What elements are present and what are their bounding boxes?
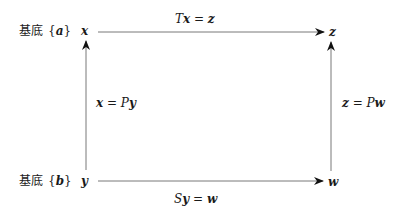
edge-label-left: x = Py [96, 97, 136, 109]
basis-var-b: b [56, 174, 64, 188]
basis-prefix: 基底 [19, 24, 43, 38]
edge-label-bottom: Sy = w [174, 193, 217, 205]
basis-a-label: 基底 {a} [19, 25, 71, 37]
edge-label-top: Tx = z [175, 13, 215, 25]
node-y: y [81, 175, 88, 187]
basis-prefix: 基底 [19, 174, 43, 188]
node-x: x [81, 25, 88, 37]
node-w: w [328, 176, 338, 188]
basis-b-label: 基底 {b} [19, 175, 72, 187]
node-z: z [329, 26, 336, 38]
edge-label-right: z = Pw [342, 97, 385, 109]
